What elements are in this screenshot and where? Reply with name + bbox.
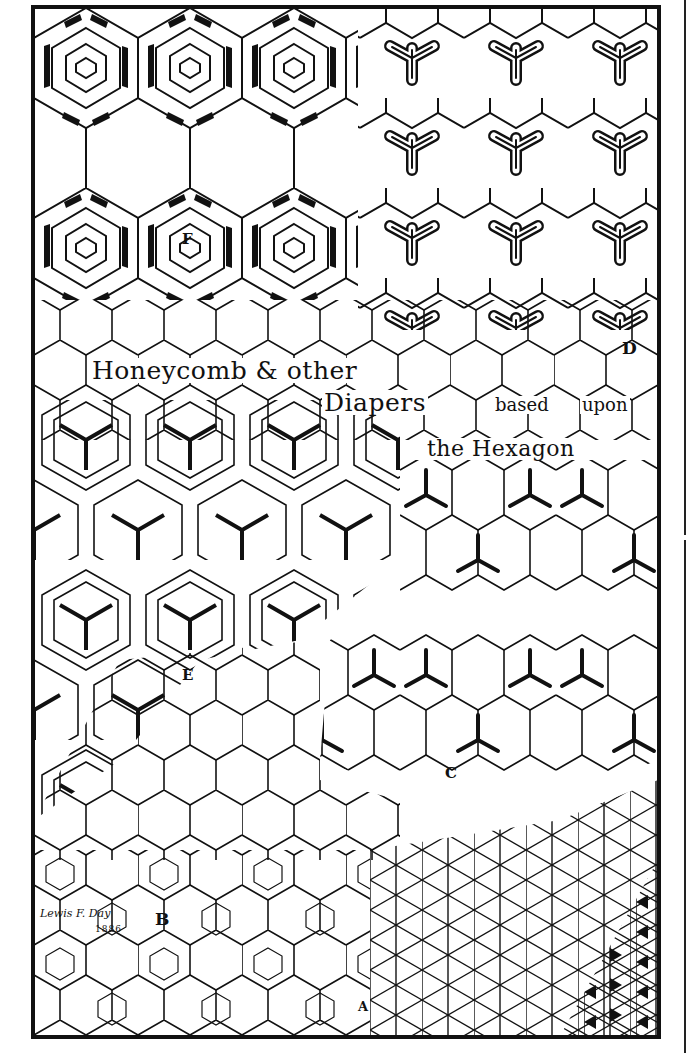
section-label-e: E (180, 668, 195, 683)
title-line-2b: based (493, 396, 551, 414)
title-line-3: the Hexagon (425, 438, 577, 460)
page-edge-divider-lower (684, 540, 686, 1053)
signature-year: 1886 (93, 925, 124, 934)
hexagon-diaper-plate (0, 0, 689, 1053)
title-line-1: Honeycomb & other (90, 358, 359, 383)
title-line-2a: Diapers (322, 390, 428, 415)
section-label-b: B (153, 911, 171, 928)
section-label-d: D (620, 340, 639, 357)
title-line-2c: upon (580, 396, 630, 414)
section-label-a: A (356, 1000, 370, 1013)
section-label-c: C (443, 766, 459, 781)
section-label-f: F (180, 232, 195, 247)
page-edge-divider (684, 0, 686, 535)
artist-signature: Lewis F. Day (38, 908, 112, 919)
